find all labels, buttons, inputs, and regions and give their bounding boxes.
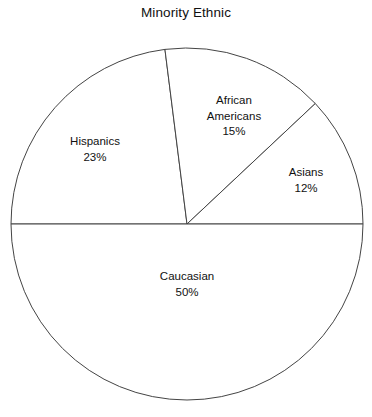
- pie-label-hispanics: Hispanics 23%: [70, 134, 120, 165]
- pie-label-hispanics-name: Hispanics: [70, 134, 120, 150]
- pie-label-african-americans-value: 15%: [207, 124, 261, 140]
- pie-label-asians-name: Asians: [289, 165, 324, 181]
- pie-label-african-americans-name-line2: Americans: [207, 108, 261, 124]
- pie-label-hispanics-value: 23%: [70, 149, 120, 165]
- pie-label-african-americans-name-line1: African: [207, 93, 261, 109]
- pie-label-asians-value: 12%: [289, 180, 324, 196]
- pie-label-caucasian: Caucasian 50%: [160, 269, 214, 300]
- pie-label-african-americans: African Americans 15%: [207, 93, 261, 140]
- pie-slices: [11, 48, 363, 400]
- pie-label-caucasian-value: 50%: [160, 284, 214, 300]
- pie-canvas: [0, 0, 372, 417]
- pie-label-asians: Asians 12%: [289, 165, 324, 196]
- pie-slice-caucasian[interactable]: [11, 224, 363, 400]
- pie-label-caucasian-name: Caucasian: [160, 269, 214, 285]
- pie-chart: Minority Ethnic Hispanics 23% African Am…: [0, 0, 372, 417]
